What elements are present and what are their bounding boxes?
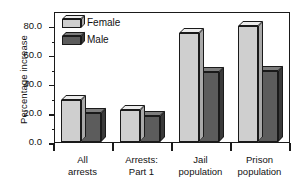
- bar-chart: Percentage increase 0.020.040.060.080.0 …: [0, 0, 298, 188]
- legend-label: Female: [87, 17, 120, 28]
- x-tick-label: Prisonpopulation: [220, 154, 299, 177]
- bar-side: [81, 95, 86, 142]
- x-axis-separator-tick: [112, 143, 113, 151]
- legend-swatch-face: [62, 36, 81, 45]
- y-tick-label: 20.0: [8, 108, 42, 118]
- bar-face: [238, 26, 258, 142]
- y-tick-major: [49, 114, 55, 115]
- y-tick-major: [49, 56, 55, 57]
- y-tick-label: 80.0: [8, 21, 42, 31]
- bar-face: [179, 33, 199, 142]
- y-tick-label: 0.0: [8, 137, 42, 147]
- bar-female: [61, 100, 81, 142]
- x-axis-separator-tick: [230, 143, 231, 151]
- bar-side: [140, 105, 145, 142]
- bar-group: [232, 13, 291, 142]
- bar-side: [278, 66, 283, 142]
- y-tick-major: [49, 85, 55, 86]
- bar-female: [238, 26, 258, 142]
- legend-swatch-female: [62, 19, 81, 28]
- legend-label: Male: [87, 34, 109, 45]
- bar-side: [160, 111, 165, 142]
- legend-item: Female: [62, 15, 120, 30]
- y-tick-label: 40.0: [8, 79, 42, 89]
- bar-female: [179, 33, 199, 142]
- legend: FemaleMale: [62, 15, 120, 49]
- x-axis-separator-tick: [289, 143, 290, 151]
- bar-group: [114, 13, 173, 142]
- y-tick-label: 60.0: [8, 50, 42, 60]
- y-tick-minor: [52, 100, 56, 101]
- bar-face: [120, 110, 140, 142]
- x-axis-separator-tick: [53, 143, 54, 151]
- bar-face: [61, 100, 81, 142]
- y-tick-minor: [52, 129, 56, 130]
- y-tick-major: [49, 27, 55, 28]
- bar-side: [199, 28, 204, 142]
- x-axis-separator-tick: [171, 143, 172, 151]
- x-tick-label-line: population: [220, 166, 299, 178]
- legend-item: Male: [62, 32, 120, 47]
- bar-female: [120, 110, 140, 142]
- bar-side: [219, 67, 224, 142]
- bar-side: [258, 20, 263, 142]
- bar-side: [101, 108, 106, 142]
- legend-swatch-face: [62, 19, 81, 28]
- bar-group: [173, 13, 232, 142]
- x-tick-label-line: Prison: [220, 154, 299, 166]
- y-tick-minor: [52, 71, 56, 72]
- legend-swatch-male: [62, 36, 81, 45]
- y-axis-tick-labels: 0.020.040.060.080.0: [8, 0, 42, 188]
- y-tick-minor: [52, 42, 56, 43]
